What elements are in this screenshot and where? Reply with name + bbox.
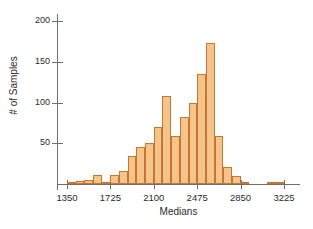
x-axis-tick-label: 2475 (174, 192, 220, 203)
plot-area (67, 21, 284, 184)
x-axis-tick-label: 3225 (261, 192, 307, 203)
histogram-bar (215, 136, 224, 184)
histogram-bar (189, 103, 198, 185)
histogram-bar (180, 117, 189, 184)
histogram-bars (67, 21, 284, 184)
histogram-bar (93, 175, 102, 184)
histogram-bar (110, 175, 119, 184)
x-axis-line (57, 184, 300, 185)
histogram-chart: # of Samples 50100150200 135017252100247… (0, 0, 313, 229)
y-axis-tick-label-wrap: 200 (0, 16, 50, 25)
y-axis-tick-label: 100 (16, 98, 50, 107)
histogram-bar (223, 167, 232, 184)
histogram-bar (162, 96, 171, 184)
y-axis-tick-label: 50 (16, 138, 50, 147)
histogram-bar (84, 180, 93, 184)
histogram-bar (136, 147, 145, 184)
histogram-bar (145, 143, 154, 184)
x-axis-title: Medians (57, 206, 300, 217)
y-axis-tick-label-wrap: 50 (0, 138, 50, 147)
x-axis-tick-label: 1350 (44, 192, 90, 203)
histogram-bar (76, 181, 85, 184)
x-axis-tick-label: 2850 (218, 192, 264, 203)
y-axis-tick-label-wrap: 100 (0, 98, 50, 107)
histogram-bar (267, 182, 276, 184)
histogram-bar (67, 182, 76, 184)
histogram-bar (102, 182, 111, 184)
histogram-bar (206, 43, 215, 184)
y-axis-tick-label: 200 (16, 16, 50, 25)
histogram-bar (232, 176, 241, 184)
y-axis-tick (52, 62, 63, 63)
x-axis-tick-label: 1725 (87, 192, 133, 203)
y-axis-tick (52, 21, 63, 22)
histogram-bar (241, 182, 250, 184)
y-axis-tick (52, 143, 63, 144)
histogram-bar (275, 182, 284, 184)
histogram-bar (119, 171, 128, 184)
y-axis-tick (52, 103, 63, 104)
histogram-bar (128, 156, 137, 184)
y-axis-tick-label: 150 (16, 57, 50, 66)
histogram-bar (197, 74, 206, 184)
x-axis-tick-label: 2100 (131, 192, 177, 203)
histogram-bar (154, 127, 163, 184)
y-axis-tick-label-wrap: 150 (0, 57, 50, 66)
histogram-bar (171, 136, 180, 184)
x-axis-tick (284, 180, 285, 189)
